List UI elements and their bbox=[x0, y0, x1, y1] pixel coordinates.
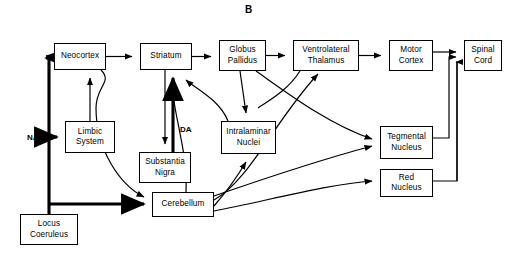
node-spinal-cord[interactable]: Spinal Cord bbox=[464, 40, 502, 71]
edge-intralaminar-striatum bbox=[186, 80, 228, 121]
node-red-nucleus[interactable]: Red Nucleus bbox=[380, 169, 433, 197]
brain-circuit-diagram: B NA DA Neocortex Striatum Globus Pallid… bbox=[0, 0, 514, 255]
node-substantia-nigra[interactable]: Substantia Nigra bbox=[139, 152, 191, 183]
edge-red-spinal bbox=[433, 62, 457, 181]
node-motor-cortex[interactable]: Motor Cortex bbox=[389, 40, 433, 71]
edge-cerebellum-intralaminar bbox=[214, 162, 246, 206]
edge-globus-intralaminar bbox=[240, 71, 246, 113]
edge-tegmental-spinal bbox=[433, 57, 456, 138]
node-globus-pallidus[interactable]: Globus Pallidus bbox=[219, 40, 266, 71]
node-tegmental-nucleus[interactable]: Tegmental Nucleus bbox=[380, 126, 433, 159]
edge-label-na: NA bbox=[27, 133, 39, 142]
node-locus-coeruleus[interactable]: Locus Coeruleus bbox=[20, 214, 78, 245]
edge-cerebellum-red-nucleus bbox=[214, 181, 372, 211]
node-ventrolateral-thalamus[interactable]: Ventrolateral Thalamus bbox=[293, 40, 359, 71]
edge-label-da: DA bbox=[180, 125, 192, 134]
node-neocortex[interactable]: Neocortex bbox=[54, 43, 106, 70]
node-intralaminar-nuclei[interactable]: Intralaminar Nuclei bbox=[221, 121, 276, 154]
node-striatum[interactable]: Striatum bbox=[140, 43, 192, 70]
node-limbic-system[interactable]: Limbic System bbox=[65, 121, 115, 153]
node-cerebellum[interactable]: Cerebellum bbox=[152, 192, 214, 217]
panel-label: B bbox=[245, 4, 252, 15]
